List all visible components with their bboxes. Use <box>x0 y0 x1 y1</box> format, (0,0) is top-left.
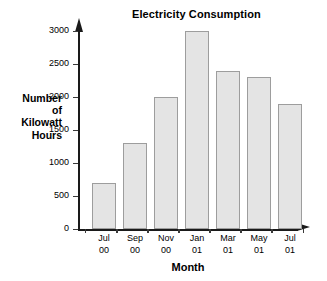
y-axis-tick-label: 2500 <box>49 58 69 68</box>
bar <box>123 143 147 229</box>
y-axis-tick-label: 1000 <box>49 157 69 167</box>
x-axis-category-label-line-1: Jul <box>269 233 311 245</box>
bars-group <box>78 31 310 229</box>
y-axis-arrow-icon <box>75 18 83 32</box>
bar <box>216 71 240 229</box>
bar <box>278 104 302 229</box>
y-axis-tick-label: 2000 <box>49 91 69 101</box>
bar <box>185 31 209 229</box>
bar <box>247 77 271 229</box>
x-axis-title: Month <box>78 261 298 273</box>
plot-area: 050010001500200025003000 <box>78 18 310 230</box>
bar-chart: Electricity Consumption Number of Kilowa… <box>0 0 327 281</box>
x-axis-line <box>78 229 298 231</box>
x-axis-category-label-line-2: 01 <box>269 245 311 257</box>
y-axis-tick: 0 <box>73 229 78 230</box>
x-axis-category-labels: Jul00Sep00Nov00Jan01Mar01May01Jul01 <box>78 233 310 261</box>
x-axis-category-label: Jul01 <box>269 233 311 256</box>
y-axis-tick-label: 0 <box>64 223 69 233</box>
y-axis-tick-label: 3000 <box>49 25 69 35</box>
bar <box>92 183 116 229</box>
bar <box>154 97 178 229</box>
y-axis-title-line-2: of <box>0 104 62 116</box>
y-axis-tick-label: 500 <box>54 190 69 200</box>
y-axis-tick-label: 1500 <box>49 124 69 134</box>
